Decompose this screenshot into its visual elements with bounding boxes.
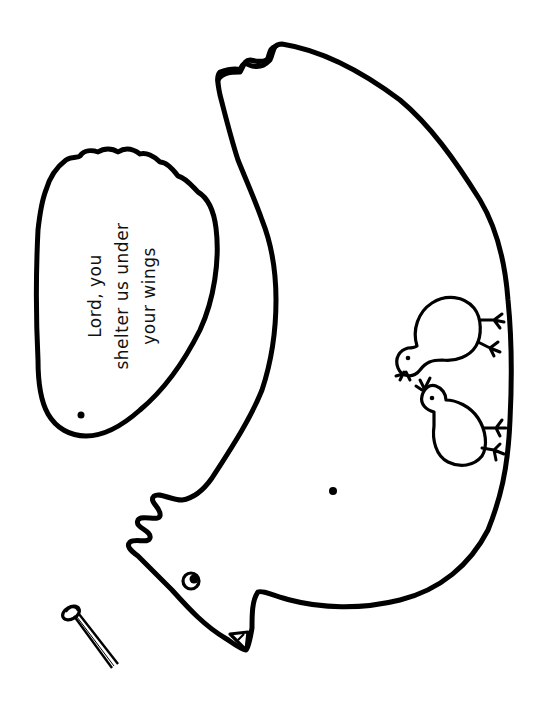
wing-text-line-3: your wings [136, 222, 163, 369]
wing-text-line-1: Lord, you [82, 222, 109, 369]
hen-pivot-dot [329, 487, 337, 495]
wing-pivot-dot [78, 412, 85, 419]
hen-eye-icon [183, 573, 199, 589]
wing-text-line-2: shelter us under [109, 222, 136, 369]
paper-fastener-icon [60, 603, 118, 668]
